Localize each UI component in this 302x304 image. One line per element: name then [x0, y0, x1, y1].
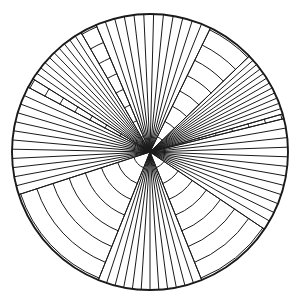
radial-fan-diagram: [0, 0, 302, 304]
figure-container: [0, 0, 302, 304]
